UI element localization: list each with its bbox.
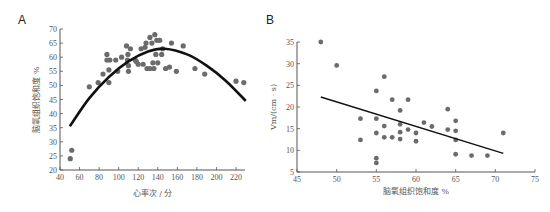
data-point (119, 55, 124, 60)
data-point (104, 52, 109, 57)
data-point (143, 41, 148, 46)
chart-panel-a: 4060801001201401601802002202025303540455… (31, 25, 246, 198)
y-tick-label: 70 (49, 25, 57, 34)
data-point (374, 116, 379, 121)
data-point (181, 43, 186, 48)
x-tick-label: 60 (76, 173, 84, 182)
data-point (87, 84, 92, 89)
data-point (374, 89, 379, 94)
x-tick-label: 160 (171, 173, 183, 182)
data-point (501, 131, 506, 136)
y-tick-label: 60 (49, 53, 57, 62)
x-tick-label: 120 (132, 173, 144, 182)
data-point (159, 52, 164, 57)
x-tick-label: 180 (191, 173, 203, 182)
data-point (453, 118, 458, 123)
y-tick-label: 45 (49, 96, 57, 105)
y-tick-label: 30 (286, 60, 294, 69)
data-point (414, 131, 419, 136)
data-point (318, 40, 323, 45)
x-tick-label: 40 (56, 173, 64, 182)
x-tick-label: 200 (210, 173, 222, 182)
data-point (100, 72, 105, 77)
data-point (358, 138, 363, 143)
y-axis-title: 脑氧组织饱和度 % (31, 66, 41, 133)
x-axis-title: 脑氧组织饱和度 % (383, 186, 450, 196)
data-point (374, 161, 379, 166)
data-point (141, 62, 146, 67)
data-point (334, 63, 339, 68)
x-tick-label: 75 (531, 175, 539, 184)
data-point (202, 72, 207, 77)
x-tick-label: 70 (491, 175, 499, 184)
y-tick-label: 20 (286, 103, 294, 112)
x-tick-label: 220 (230, 173, 242, 182)
data-point (241, 80, 246, 85)
data-point (192, 66, 197, 71)
data-point (358, 116, 363, 121)
data-point (374, 156, 379, 161)
y-axis-title: Vm/(cm · s) (269, 84, 278, 131)
x-tick-label: 50 (333, 175, 341, 184)
y-tick-label: 5 (290, 168, 294, 177)
data-point (382, 124, 387, 129)
x-tick-label: 140 (152, 173, 164, 182)
y-tick-label: 50 (49, 81, 57, 90)
data-point (406, 97, 411, 102)
data-point (390, 135, 395, 140)
data-point (382, 135, 387, 140)
x-tick-label: 80 (95, 173, 103, 182)
x-tick-label: 100 (113, 173, 125, 182)
data-point (398, 108, 403, 113)
data-point (445, 127, 450, 132)
y-tick-label: 35 (49, 124, 57, 133)
data-point (153, 52, 158, 57)
x-tick-label: 45 (293, 175, 301, 184)
data-point (390, 97, 395, 102)
x-axis-title: 心率次 / 分 (133, 188, 173, 198)
data-point (422, 120, 427, 125)
data-point (445, 107, 450, 112)
x-tick-label: 55 (372, 175, 380, 184)
data-point (169, 41, 174, 46)
data-point (128, 46, 133, 51)
data-point (453, 152, 458, 157)
data-point (69, 148, 74, 153)
y-tick-label: 30 (49, 138, 57, 147)
data-point (152, 32, 157, 37)
data-point (107, 57, 112, 62)
data-point (157, 38, 162, 43)
data-point (68, 156, 73, 161)
data-point (155, 60, 160, 65)
data-point (233, 79, 238, 84)
data-point (374, 131, 379, 136)
data-point (469, 153, 474, 158)
data-point (149, 41, 154, 46)
data-point (406, 127, 411, 132)
x-tick-label: 65 (452, 175, 460, 184)
data-point (150, 60, 155, 65)
y-tick-label: 40 (49, 110, 57, 119)
data-point (136, 62, 141, 67)
data-point (174, 69, 179, 74)
fit-line (321, 97, 503, 153)
y-tick-label: 20 (49, 166, 57, 175)
data-point (382, 74, 387, 79)
data-point (106, 67, 111, 72)
data-point (113, 57, 118, 62)
data-point (429, 124, 434, 129)
data-point (398, 137, 403, 142)
y-tick-label: 15 (286, 125, 294, 134)
data-point (151, 66, 156, 71)
x-tick-label: 60 (412, 175, 420, 184)
chart-panel-b: 455055606570755101520253035脑氧组织饱和度 %Vm/(… (269, 38, 539, 196)
y-tick-label: 35 (286, 38, 294, 47)
y-tick-label: 55 (49, 67, 57, 76)
y-tick-label: 25 (286, 81, 294, 90)
y-tick-label: 25 (49, 152, 57, 161)
y-tick-label: 10 (286, 146, 294, 155)
chart-canvas: 4060801001201401601802002202025303540455… (0, 0, 550, 212)
y-tick-label: 65 (49, 39, 57, 48)
data-point (126, 69, 131, 74)
data-point (398, 130, 403, 135)
